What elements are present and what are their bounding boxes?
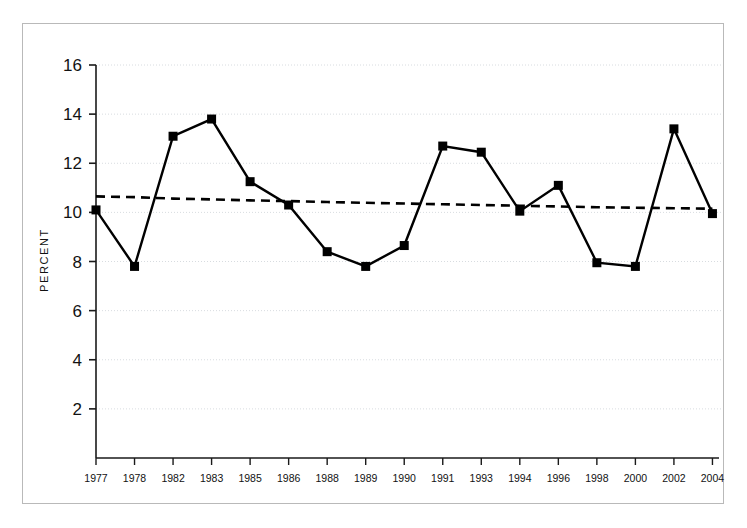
line-chart: 246810121416 197719781982198319851986198… bbox=[0, 0, 747, 528]
x-axis-tick-label: 1977 bbox=[84, 472, 108, 484]
data-point-marker bbox=[130, 262, 139, 271]
data-point-marker bbox=[631, 262, 640, 271]
y-axis-tick-label: 14 bbox=[63, 105, 82, 124]
data-point-marker bbox=[515, 207, 524, 216]
y-axis-tick-label: 2 bbox=[73, 400, 82, 419]
x-axis-tick-label: 1994 bbox=[508, 472, 532, 484]
chart-page: 246810121416 197719781982198319851986198… bbox=[0, 0, 747, 528]
y-axis-tick-label: 10 bbox=[63, 203, 82, 222]
x-axis-tick-label: 2000 bbox=[624, 472, 648, 484]
x-axis-tick-label: 1996 bbox=[547, 472, 571, 484]
data-point-marker bbox=[708, 209, 717, 218]
y-axis-title: PERCENT bbox=[38, 228, 50, 292]
x-axis-tick-label: 1986 bbox=[277, 472, 301, 484]
x-axis-tick-label: 1990 bbox=[393, 472, 417, 484]
x-axis-tick-label: 1989 bbox=[354, 472, 378, 484]
data-point-marker bbox=[246, 177, 255, 186]
data-point-marker bbox=[477, 148, 486, 157]
data-point-marker bbox=[592, 258, 601, 267]
data-point-marker bbox=[323, 247, 332, 256]
y-axis-tick-label: 16 bbox=[63, 56, 82, 75]
x-axis-ticks: 1977197819821983198519861988198919901991… bbox=[84, 458, 724, 484]
x-axis-tick-label: 1985 bbox=[238, 472, 262, 484]
data-point-marker bbox=[169, 132, 178, 141]
y-axis-tick-label: 4 bbox=[73, 351, 82, 370]
data-point-marker bbox=[669, 124, 678, 133]
y-axis-tick-label: 12 bbox=[63, 154, 82, 173]
x-axis-tick-label: 1978 bbox=[123, 472, 147, 484]
data-point-marker bbox=[92, 205, 101, 214]
trend-line-series bbox=[96, 196, 712, 208]
data-point-marker bbox=[207, 115, 216, 124]
data-point-marker bbox=[361, 262, 370, 271]
x-axis-tick-label: 1998 bbox=[585, 472, 609, 484]
data-point-marker bbox=[438, 142, 447, 151]
x-axis-tick-label: 1991 bbox=[431, 472, 455, 484]
y-axis-ticks: 246810121416 bbox=[63, 56, 96, 419]
x-axis-tick-label: 2002 bbox=[662, 472, 686, 484]
x-axis-tick-label: 2004 bbox=[701, 472, 725, 484]
data-point-marker bbox=[284, 201, 293, 210]
y-axis-tick-label: 8 bbox=[73, 253, 82, 272]
x-axis-tick-label: 1983 bbox=[200, 472, 224, 484]
data-point-marker bbox=[554, 181, 563, 190]
x-axis-tick-label: 1993 bbox=[470, 472, 494, 484]
y-axis-tick-label: 6 bbox=[73, 302, 82, 321]
x-axis-tick-label: 1982 bbox=[161, 472, 185, 484]
data-point-marker bbox=[400, 241, 409, 250]
data-point-markers bbox=[92, 115, 717, 271]
x-axis-tick-label: 1988 bbox=[315, 472, 339, 484]
